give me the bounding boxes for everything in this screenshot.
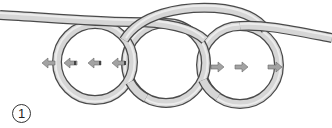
arrow-left-icon (88, 58, 101, 68)
arrow-left-icon (64, 58, 77, 68)
arrow-right-icon (235, 62, 248, 72)
step-number-badge: 1 (12, 104, 31, 123)
step-number-label: 1 (18, 107, 25, 120)
rope-drawing: .edge { fill: none; stroke: #4a4a4a; str… (0, 0, 332, 128)
direction-arrows (42, 58, 282, 72)
arrow-right-icon (211, 62, 224, 72)
knot-diagram: .edge { fill: none; stroke: #4a4a4a; str… (0, 0, 332, 128)
